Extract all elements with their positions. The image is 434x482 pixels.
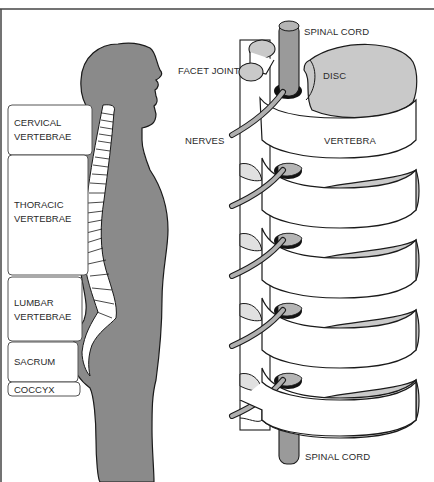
label-facet-joint: FACET JOINT <box>178 64 240 77</box>
facet-joint-lower <box>239 63 263 81</box>
label-lumbar-line1: LUMBAR <box>14 296 71 310</box>
label-nerves: NERVES <box>185 134 225 147</box>
label-cervical-line1: CERVICAL <box>14 116 71 130</box>
label-cervical-line2: VERTEBRAE <box>14 130 71 144</box>
label-spinal-cord-top: SPINAL CORD <box>304 25 369 38</box>
label-cervical: CERVICAL VERTEBRAE <box>14 116 71 144</box>
label-lumbar-line2: VERTEBRAE <box>14 310 71 324</box>
label-thoracic-line2: VERTEBRAE <box>14 212 71 226</box>
disc-top <box>304 44 417 117</box>
label-sacrum-line1: SACRUM <box>14 355 55 369</box>
label-disc: DISC <box>323 69 346 82</box>
label-lumbar: LUMBAR VERTEBRAE <box>14 296 71 324</box>
label-sacrum: SACRUM <box>14 355 55 369</box>
label-coccyx: COCCYX <box>14 383 55 396</box>
label-vertebra: VERTEBRA <box>324 134 376 147</box>
label-thoracic-line1: THORACIC <box>14 198 71 212</box>
label-spinal-cord-bottom: SPINAL CORD <box>305 450 370 463</box>
label-coccyx-line1: COCCYX <box>14 383 55 396</box>
label-thoracic: THORACIC VERTEBRAE <box>14 198 71 226</box>
spine-diagram: CERVICAL VERTEBRAE THORACIC VERTEBRAE LU… <box>0 0 434 482</box>
spinal-cord-top <box>279 22 299 96</box>
